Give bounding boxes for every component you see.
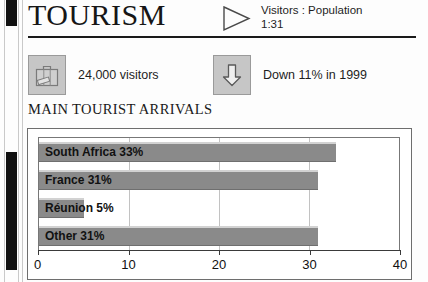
- chart-x-tick-label: 30: [302, 257, 316, 272]
- chart-x-tick: [129, 250, 130, 255]
- chart-plot-inner: South Africa 33%France 31%Réunion 5%Othe…: [39, 138, 399, 250]
- section-heading: MAIN TOURIST ARRIVALS: [28, 101, 213, 118]
- chart-x-tick-label: 10: [121, 257, 135, 272]
- chart-bar-label: Réunion 5%: [45, 201, 114, 215]
- stat-change: Down 11% in 1999: [213, 55, 367, 95]
- stat-change-label: Down 11% in 1999: [263, 68, 367, 82]
- stat-visitors-label: 24,000 visitors: [78, 68, 159, 82]
- ratio-value: 1:31: [261, 18, 283, 30]
- chart-x-tick-label: 20: [212, 257, 226, 272]
- chart-x-tick-label: 0: [34, 257, 41, 272]
- page-edge-artifact-bottom: [6, 152, 17, 270]
- chart-x-tick: [38, 250, 39, 255]
- chart-bar-label: South Africa 33%: [45, 145, 143, 159]
- arrivals-chart: South Africa 33%France 31%Réunion 5%Othe…: [27, 128, 412, 280]
- tourism-infographic-page: TOURISM Visitors : Population 1:31: [0, 0, 428, 282]
- page-margin-line-outer: [22, 0, 23, 282]
- chart-bar-row: Réunion 5%: [39, 194, 399, 222]
- play-triangle-icon: [222, 5, 252, 36]
- chart-bar-row: South Africa 33%: [39, 138, 399, 166]
- ratio-text-group: Visitors : Population 1:31: [261, 3, 362, 31]
- page-margin-line-left: [4, 0, 5, 282]
- chart-x-tick: [219, 250, 220, 255]
- title-underline-rule: [28, 36, 416, 38]
- chart-bar-row: France 31%: [39, 166, 399, 194]
- page-title: TOURISM: [28, 0, 166, 32]
- down-arrow-icon: [213, 55, 251, 95]
- visitor-population-ratio: Visitors : Population 1:31: [222, 3, 362, 36]
- chart-x-tick: [310, 250, 311, 255]
- suitcase-icon: [28, 55, 66, 95]
- page-edge-artifact-top: [6, 0, 17, 26]
- chart-x-tick-label: 40: [393, 257, 407, 272]
- chart-bar-label: France 31%: [45, 173, 112, 187]
- ratio-label: Visitors : Population: [261, 4, 362, 16]
- stat-visitors: 24,000 visitors: [28, 55, 159, 95]
- chart-x-tick: [400, 250, 401, 255]
- tourism-stat-strip: 24,000 visitors Down 11% in 1999: [28, 55, 418, 97]
- chart-bar-row: Other 31%: [39, 222, 399, 250]
- chart-bar-label: Other 31%: [45, 229, 104, 243]
- chart-plot-area: South Africa 33%France 31%Réunion 5%Othe…: [38, 137, 400, 250]
- page-margin-line-inner: [18, 0, 19, 282]
